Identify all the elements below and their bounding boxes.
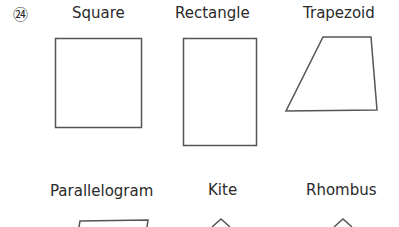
rectangle-shape <box>184 39 257 146</box>
trapezoid-shape <box>286 37 377 111</box>
kite-shape <box>212 219 230 227</box>
parallelogram-shape <box>79 220 148 227</box>
rhombus-shape <box>334 219 352 227</box>
shapes-canvas <box>0 0 399 227</box>
square-shape <box>56 39 142 128</box>
